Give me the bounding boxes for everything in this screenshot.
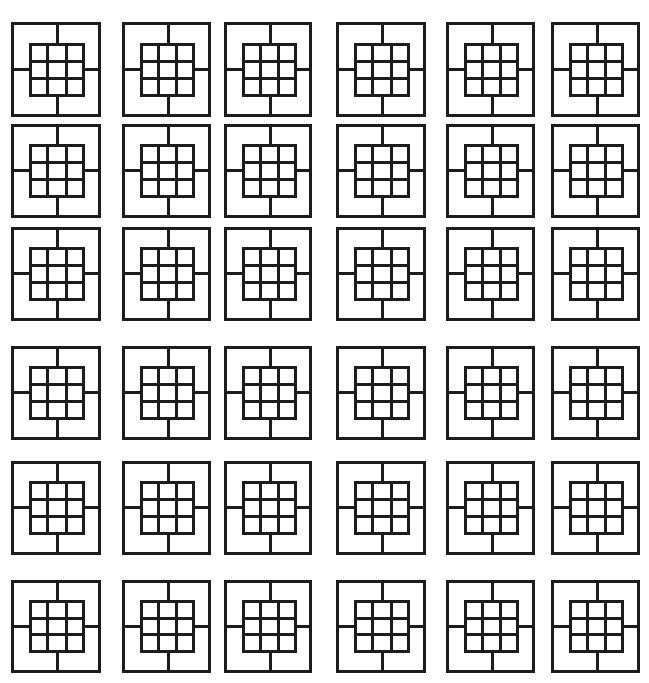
grid-cell [68, 250, 82, 264]
grid-cell [160, 369, 176, 383]
spoke-left [449, 68, 464, 71]
grid-cell [262, 603, 278, 617]
grid-cell [607, 164, 621, 178]
grid-cell [484, 603, 500, 617]
grid-cell [572, 603, 586, 617]
spoke-right [624, 68, 637, 71]
grid-cell [357, 386, 371, 400]
spoke-top [269, 349, 272, 366]
grid-cell [143, 164, 157, 178]
grid-cell [32, 250, 46, 264]
grid-cell [32, 181, 46, 195]
grid-cell [467, 386, 481, 400]
grid-cell [262, 267, 278, 281]
grid-cell [160, 284, 176, 298]
grid-cell [393, 147, 407, 161]
inner-3x3-grid [140, 600, 195, 653]
spoke-top [381, 583, 384, 600]
grid-cell [178, 147, 192, 161]
grid-cell [357, 636, 371, 650]
grid-cell [589, 267, 605, 281]
grid-cell [68, 147, 82, 161]
grid-cell [49, 484, 65, 498]
grid-cell [374, 369, 390, 383]
grid-cell [589, 63, 605, 77]
grid-cell [502, 164, 516, 178]
grid-cell [68, 636, 82, 650]
spoke-bottom [269, 301, 272, 318]
grid-cell [393, 518, 407, 532]
grid-cell [484, 164, 500, 178]
spoke-left [339, 506, 354, 509]
grid-cell [484, 501, 500, 515]
grid-cell [502, 80, 516, 94]
grid-cell [484, 267, 500, 281]
grid-cell [467, 284, 481, 298]
grid-cell [245, 267, 259, 281]
grid-cell [143, 181, 157, 195]
grid-cell [374, 484, 390, 498]
grid-cell [262, 46, 278, 60]
spoke-bottom [381, 420, 384, 437]
grid-cell [393, 46, 407, 60]
grid-cell [607, 501, 621, 515]
spoke-bottom [56, 301, 59, 318]
tile [122, 580, 211, 673]
grid-cell [484, 63, 500, 77]
spoke-top [596, 464, 599, 481]
grid-cell [484, 484, 500, 498]
spoke-bottom [596, 198, 599, 215]
grid-cell [484, 386, 500, 400]
grid-cell [32, 403, 46, 417]
grid-cell [160, 267, 176, 281]
grid-cell [49, 603, 65, 617]
grid-cell [68, 386, 82, 400]
grid-cell [280, 636, 294, 650]
grid-cell [502, 250, 516, 264]
grid-cell [357, 620, 371, 634]
grid-cell [502, 603, 516, 617]
spoke-top [269, 583, 272, 600]
spoke-left [554, 506, 569, 509]
spoke-bottom [381, 535, 384, 552]
grid-cell [357, 484, 371, 498]
spoke-bottom [56, 535, 59, 552]
spoke-bottom [596, 301, 599, 318]
grid-cell [572, 250, 586, 264]
grid-cell [572, 267, 586, 281]
tile [446, 22, 535, 117]
inner-3x3-grid [140, 43, 195, 97]
grid-cell [374, 501, 390, 515]
grid-cell [68, 80, 82, 94]
spoke-top [596, 230, 599, 247]
grid-cell [502, 267, 516, 281]
grid-cell [607, 518, 621, 532]
grid-cell [32, 518, 46, 532]
spoke-top [491, 230, 494, 247]
grid-cell [49, 386, 65, 400]
grid-cell [374, 603, 390, 617]
grid-cell [484, 369, 500, 383]
grid-cell [143, 603, 157, 617]
grid-cell [68, 63, 82, 77]
grid-cell [245, 181, 259, 195]
grid-cell [484, 250, 500, 264]
grid-cell [49, 620, 65, 634]
inner-3x3-grid [29, 247, 85, 301]
grid-cell [357, 63, 371, 77]
grid-cell [374, 403, 390, 417]
grid-cell [280, 369, 294, 383]
spoke-bottom [269, 420, 272, 437]
grid-cell [374, 518, 390, 532]
grid-cell [393, 603, 407, 617]
inner-3x3-grid [29, 481, 85, 535]
tile [224, 124, 312, 218]
grid-cell [262, 147, 278, 161]
grid-cell [68, 164, 82, 178]
grid-cell [484, 147, 500, 161]
grid-cell [374, 80, 390, 94]
grid-cell [32, 46, 46, 60]
grid-cell [280, 164, 294, 178]
grid-cell [160, 501, 176, 515]
grid-cell [160, 403, 176, 417]
